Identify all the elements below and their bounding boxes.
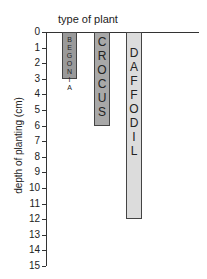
y-tick — [42, 110, 46, 111]
y-tick — [42, 79, 46, 80]
y-tick-label: 4 — [20, 89, 40, 99]
y-axis — [46, 32, 47, 266]
bar-crocus: CROCUS — [94, 32, 110, 126]
y-tick — [42, 204, 46, 205]
y-tick-label: 12 — [20, 214, 40, 224]
y-tick-label: 2 — [20, 58, 40, 68]
bar-begonia: BEGONIA — [62, 32, 77, 79]
chart-title: type of plant — [58, 13, 118, 25]
y-tick-label: 11 — [20, 199, 40, 209]
y-tick — [42, 157, 46, 158]
y-tick-label: 15 — [20, 261, 40, 271]
y-tick — [42, 141, 46, 142]
y-tick-label: 14 — [20, 245, 40, 255]
y-tick — [42, 172, 46, 173]
y-tick-label: 13 — [20, 230, 40, 240]
y-tick — [42, 48, 46, 49]
y-tick — [42, 235, 46, 236]
y-tick-label: 6 — [20, 121, 40, 131]
y-tick-label: 8 — [20, 152, 40, 162]
y-tick — [42, 126, 46, 127]
y-tick — [42, 188, 46, 189]
y-tick-label: 10 — [20, 183, 40, 193]
y-tick — [42, 266, 46, 267]
y-tick-label: 9 — [20, 167, 40, 177]
y-tick — [42, 219, 46, 220]
y-tick-label: 7 — [20, 136, 40, 146]
y-tick — [42, 94, 46, 95]
bar-daffodil: DAFFODIL — [126, 32, 142, 219]
y-tick — [42, 63, 46, 64]
y-tick — [42, 32, 46, 33]
y-tick-label: 3 — [20, 74, 40, 84]
y-tick-label: 5 — [20, 105, 40, 115]
y-tick-label: 1 — [20, 43, 40, 53]
y-tick — [42, 250, 46, 251]
y-tick-label: 0 — [20, 27, 40, 37]
